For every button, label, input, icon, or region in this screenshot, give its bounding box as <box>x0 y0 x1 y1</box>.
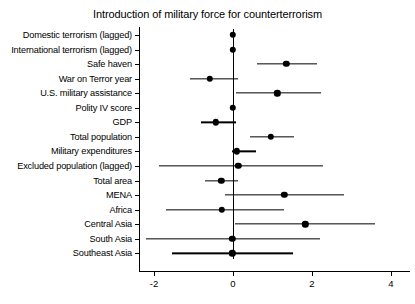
y-axis-label: Domestic terrorism (lagged) <box>23 30 132 40</box>
point-estimate-marker <box>234 148 240 154</box>
x-axis-tick <box>312 272 313 276</box>
y-axis-label: Polity IV score <box>76 103 132 113</box>
x-axis-tick <box>391 272 392 276</box>
y-axis-label: South Asia <box>90 234 132 244</box>
coefficient-plot-figure: Introduction of military force for count… <box>0 0 415 304</box>
point-estimate-marker <box>229 235 235 241</box>
plot-area: Domestic terrorism (lagged)International… <box>0 0 415 304</box>
y-axis-label: International terrorism (lagged) <box>11 45 132 55</box>
point-estimate-marker <box>302 221 308 227</box>
y-axis-label: MENA <box>106 190 132 200</box>
point-estimate-marker <box>213 119 219 125</box>
x-axis-tick <box>154 272 155 276</box>
point-estimate-marker <box>219 206 225 212</box>
x-axis-tick <box>233 272 234 276</box>
point-estimate-marker <box>218 177 224 183</box>
confidence-interval-line <box>166 209 285 210</box>
x-axis-line <box>139 271 410 272</box>
y-axis-label: Excluded population (lagged) <box>17 161 132 171</box>
point-estimate-marker <box>230 32 236 38</box>
confidence-interval-line <box>190 78 238 79</box>
point-estimate-marker <box>230 46 236 52</box>
y-axis-label: Military expenditures <box>51 146 132 156</box>
point-estimate-marker <box>283 61 289 67</box>
y-axis-label: U.S. military assistance <box>40 88 132 98</box>
point-estimate-marker <box>267 134 273 140</box>
x-axis-tick-label: -2 <box>150 278 158 289</box>
point-estimate-marker <box>235 163 241 169</box>
y-axis-label: Africa <box>109 205 132 215</box>
x-axis-tick-label: 4 <box>388 278 393 289</box>
point-estimate-marker <box>281 192 287 198</box>
y-axis-label: Central Asia <box>84 219 132 229</box>
y-axis-label: GDP <box>113 117 132 127</box>
point-estimate-marker <box>230 105 236 111</box>
y-axis-label: War on Terror year <box>59 74 132 84</box>
x-axis-tick-label: 2 <box>309 278 314 289</box>
zero-reference-line <box>233 29 234 259</box>
y-axis-line <box>139 27 140 271</box>
point-estimate-marker <box>207 75 213 81</box>
y-axis-label: Safe haven <box>87 59 132 69</box>
y-axis-label: Total area <box>93 176 132 186</box>
y-axis-label: Total population <box>70 132 132 142</box>
x-axis-tick-label: 0 <box>230 278 235 289</box>
point-estimate-marker <box>274 90 280 96</box>
y-axis-label: Southeast Asia <box>73 248 132 258</box>
point-estimate-marker <box>229 250 235 256</box>
